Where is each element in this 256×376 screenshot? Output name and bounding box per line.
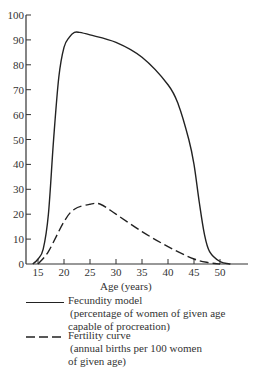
y-tick-label: 0 bbox=[19, 258, 25, 270]
axes: 01020304050607080901001520253035404550 bbox=[8, 9, 249, 278]
legend-desc-line2: of given age) bbox=[68, 355, 202, 368]
y-tick-label: 100 bbox=[8, 9, 25, 21]
x-tick-label: 50 bbox=[215, 266, 227, 278]
y-tick-label: 90 bbox=[13, 34, 25, 46]
dashed-line-swatch bbox=[26, 335, 66, 339]
legend-desc-line1: (percentage of women of given age bbox=[68, 307, 225, 320]
series-lines bbox=[33, 32, 231, 264]
x-tick-label: 40 bbox=[163, 266, 175, 278]
x-tick-label: 35 bbox=[137, 266, 149, 278]
x-tick-label: 15 bbox=[33, 266, 45, 278]
y-tick-label: 70 bbox=[13, 84, 25, 96]
legend-title: Fertility curve bbox=[68, 329, 202, 342]
x-tick-label: 25 bbox=[85, 266, 97, 278]
chart-plot: 01020304050607080901001520253035404550 bbox=[0, 0, 256, 290]
x-tick-label: 20 bbox=[59, 266, 71, 278]
y-tick-label: 30 bbox=[13, 183, 25, 195]
solid-line-swatch bbox=[26, 302, 64, 303]
fecundity-model-line bbox=[33, 32, 231, 264]
fertility-curve-line bbox=[38, 203, 220, 264]
y-tick-label: 20 bbox=[13, 208, 25, 220]
legend-desc-line1: (annual births per 100 women bbox=[68, 342, 202, 355]
x-tick-label: 30 bbox=[111, 266, 123, 278]
y-tick-label: 60 bbox=[13, 109, 25, 121]
y-tick-label: 80 bbox=[13, 59, 25, 71]
y-tick-label: 40 bbox=[13, 158, 25, 170]
legend-title: Fecundity model bbox=[68, 294, 225, 307]
y-tick-label: 50 bbox=[13, 134, 25, 146]
x-tick-label: 45 bbox=[189, 266, 201, 278]
x-axis-label: Age (years) bbox=[100, 280, 152, 292]
y-tick-label: 10 bbox=[13, 233, 25, 245]
